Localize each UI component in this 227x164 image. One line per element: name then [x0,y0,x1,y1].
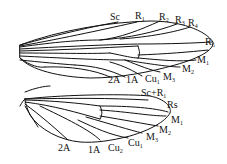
label-r2: R2 [159,12,169,25]
label-sc-r1: Sc+R1 [141,88,166,101]
label-m2: M2 [159,125,171,138]
label-r1: R1 [135,11,145,24]
label-r4: R4 [188,18,198,31]
label-2a: 2A [58,143,70,156]
label-m1: M1 [197,55,209,68]
label-1a: 1A [88,145,100,158]
label-m3: M3 [163,72,175,85]
label-r3: R3 [175,15,185,28]
label-1a: 1A [126,75,138,88]
label-cu1: Cu1 [128,138,143,151]
label-m3: M3 [146,132,158,145]
label-m1: M1 [171,115,183,128]
label-r5: R5 [205,37,215,50]
label-cu1: Cu1 [145,74,160,87]
label-m2: M2 [182,64,194,77]
label-2a: 2A [108,75,120,88]
label-cu2: Cu2 [108,143,123,156]
label-sc: Sc [110,12,120,25]
wing-venation-diagram: Sc R1 R2 R3 R4 R5 M1 M2 M3 Cu1 1A 2A Sc+… [0,0,227,164]
label-rs: Rs [167,100,178,113]
